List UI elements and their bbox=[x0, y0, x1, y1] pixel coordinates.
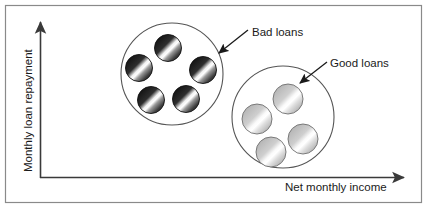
bad-loan-point bbox=[138, 87, 165, 114]
good-loan-point bbox=[288, 124, 318, 154]
good-loan-point bbox=[273, 84, 303, 114]
bad-loans-label: Bad loans bbox=[252, 26, 303, 38]
good-loan-point bbox=[256, 137, 286, 167]
bad-loan-point bbox=[155, 35, 182, 62]
bad-loan-point bbox=[190, 57, 217, 84]
loan-scatter-diagram: Monthly loan repayment Net monthly incom… bbox=[0, 0, 427, 208]
good-loans-callout-arrow bbox=[300, 62, 327, 83]
bad-loan-point bbox=[126, 55, 153, 82]
y-axis-label: Monthly loan repayment bbox=[22, 48, 34, 172]
bad-loans-callout-arrow bbox=[219, 30, 248, 53]
cluster-good-loans: Good loans bbox=[232, 57, 389, 168]
good-loan-point bbox=[242, 104, 272, 134]
x-axis-label: Net monthly income bbox=[285, 181, 387, 193]
bad-loan-point bbox=[173, 86, 200, 113]
diagram-canvas: Monthly loan repayment Net monthly incom… bbox=[0, 0, 427, 208]
good-loans-label: Good loans bbox=[330, 57, 389, 69]
cluster-bad-loans: Bad loans bbox=[121, 23, 303, 125]
